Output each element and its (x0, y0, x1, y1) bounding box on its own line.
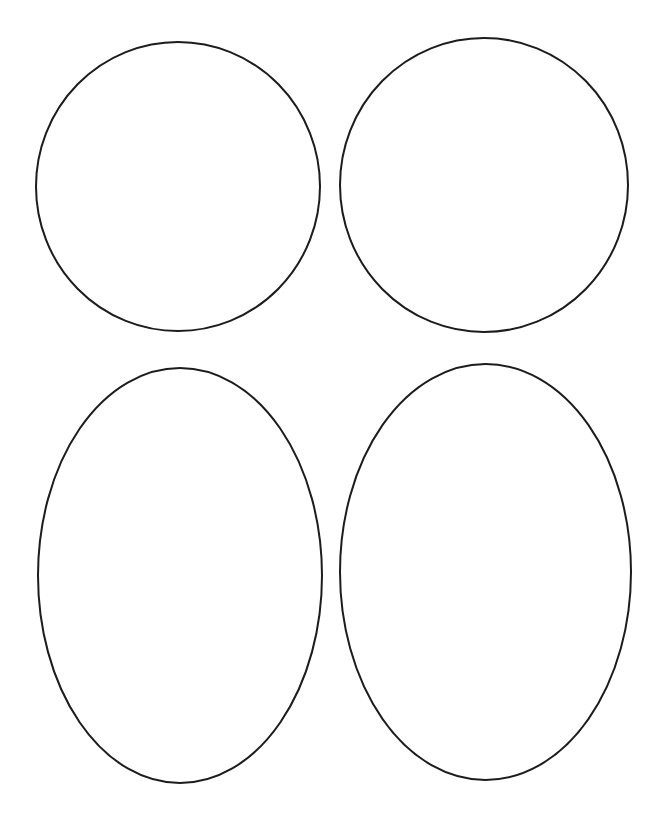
shape-canvas (0, 0, 667, 825)
circle-top-left[interactable] (36, 42, 320, 331)
oval-bottom-right[interactable] (340, 364, 631, 780)
worksheet-page (0, 0, 667, 825)
oval-bottom-left[interactable] (38, 368, 322, 783)
circle-top-right[interactable] (340, 38, 628, 332)
